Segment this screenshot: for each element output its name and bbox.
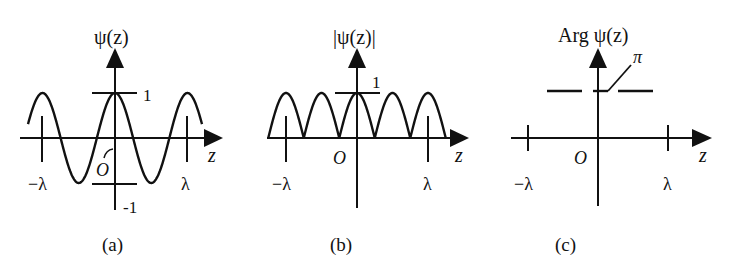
label-pi: π xyxy=(633,47,643,67)
label-pos-lambda: λ xyxy=(181,174,190,194)
label-neg-lambda: −λ xyxy=(514,174,533,194)
panel-a-title: ψ(z) xyxy=(94,26,129,49)
pi-leader xyxy=(608,65,631,91)
caption-a: (a) xyxy=(102,234,123,256)
figure: ψ(z) 1 -1 O −λ λ z (a) |ψ(z)| 1 O −λ λ z… xyxy=(0,0,733,274)
label-neg-lambda: −λ xyxy=(28,174,47,194)
x-axis-label: z xyxy=(698,144,707,166)
label-one: 1 xyxy=(143,86,152,105)
panel-c: Arg ψ(z) π O −λ λ z (c) xyxy=(511,24,712,256)
x-axis-label: z xyxy=(207,144,216,166)
figure-svg: ψ(z) 1 -1 O −λ λ z (a) |ψ(z)| 1 O −λ λ z… xyxy=(0,0,733,274)
origin-leader xyxy=(104,149,113,158)
y-axis-arrow-icon xyxy=(589,48,607,68)
label-pos-lambda: λ xyxy=(663,174,672,194)
label-minus-one: -1 xyxy=(123,198,137,217)
panel-b: |ψ(z)| 1 O −λ λ z (b) xyxy=(267,26,469,256)
origin-label: O xyxy=(574,148,587,168)
y-axis-arrow-icon xyxy=(348,48,366,68)
caption-c: (c) xyxy=(555,234,576,256)
y-axis-arrow-icon xyxy=(106,48,124,68)
label-neg-lambda: −λ xyxy=(272,174,291,194)
origin-label: O xyxy=(333,148,346,168)
caption-b: (b) xyxy=(330,234,352,256)
label-pos-lambda: λ xyxy=(423,174,432,194)
panel-c-title: Arg ψ(z) xyxy=(558,24,628,47)
label-one: 1 xyxy=(372,73,381,92)
panel-b-title: |ψ(z)| xyxy=(333,26,376,49)
x-axis-label: z xyxy=(454,144,463,166)
origin-label: O xyxy=(96,160,109,180)
panel-a: ψ(z) 1 -1 O −λ λ z (a) xyxy=(20,26,223,256)
